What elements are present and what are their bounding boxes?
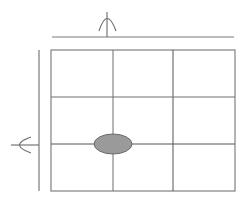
left-pointer-icon [11,137,39,153]
top-pointer-icon [99,12,116,37]
diagram-svg [0,0,246,201]
marker-ellipse [94,134,132,154]
grid [51,50,235,191]
grid-border [51,50,235,191]
diagram-canvas [0,0,246,201]
